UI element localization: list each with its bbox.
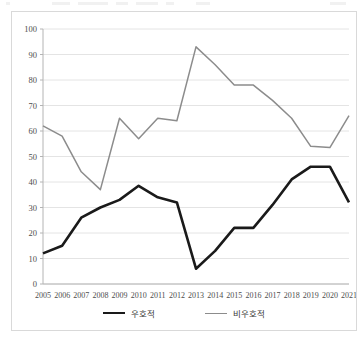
x-axis-tick-label: 2005 <box>35 291 51 300</box>
x-axis-tick-label: 2019 <box>303 291 319 300</box>
x-axis-tick-label: 2009 <box>112 291 128 300</box>
gridlines-group <box>43 29 349 284</box>
x-axis-tick-label: 2011 <box>150 291 166 300</box>
x-axis-tick-label: 2015 <box>226 291 242 300</box>
series-line-비우호적 <box>43 47 349 190</box>
x-axis-tick-labels: 2005200620072008200920102011201220132014… <box>35 291 356 300</box>
legend-line-swatch <box>205 313 227 314</box>
y-axis-tick-label: 70 <box>29 101 38 111</box>
x-axis-tick-label: 2013 <box>188 291 204 300</box>
y-axis-tick-labels: 0102030405060708090100 <box>24 24 37 289</box>
chart-legend: 우호적비우호적 <box>11 300 357 326</box>
y-axis-tick-label: 90 <box>29 50 38 60</box>
x-axis-tick-label: 2012 <box>169 291 185 300</box>
x-axis-tick-label: 2007 <box>73 291 89 300</box>
x-axis-tick-label: 2018 <box>284 291 300 300</box>
y-axis-tick-label: 10 <box>29 254 38 264</box>
y-axis-tick-label: 40 <box>29 177 38 187</box>
x-axis-tick-label: 2014 <box>207 291 223 300</box>
legend-label: 비우호적 <box>233 307 265 319</box>
legend-entry-0[interactable]: 우호적 <box>103 307 155 319</box>
x-axis-tick-label: 2016 <box>245 291 261 300</box>
chart-plot-frame: 0102030405060708090100 20052006200720082… <box>11 11 357 331</box>
x-axis-tick-label: 2010 <box>131 291 147 300</box>
y-axis-tick-label: 50 <box>29 152 38 162</box>
legend-entry-1[interactable]: 비우호적 <box>205 307 265 319</box>
y-axis-tick-label: 0 <box>33 279 37 289</box>
x-axis-tick-label: 2017 <box>265 291 281 300</box>
x-axis-tick-label: 2021 <box>341 291 356 300</box>
chart-svg: 0102030405060708090100 20052006200720082… <box>12 12 356 330</box>
line-chart-figure: 0102030405060708090100 20052006200720082… <box>0 0 364 341</box>
y-axis-tick-label: 20 <box>29 228 38 238</box>
x-axis-tick-label: 2008 <box>92 291 108 300</box>
legend-label: 우호적 <box>131 307 155 319</box>
y-axis-tick-label: 80 <box>29 75 38 85</box>
y-axis-tick-label: 100 <box>24 24 37 34</box>
legend-line-swatch <box>103 312 125 314</box>
x-axis-tick-label: 2006 <box>54 291 70 300</box>
chart-canvas: 0102030405060708090100 20052006200720082… <box>12 12 356 330</box>
y-axis-tick-label: 60 <box>29 126 38 136</box>
x-axis-tick-label: 2020 <box>322 291 338 300</box>
capture-artifact-strip <box>0 0 364 9</box>
y-axis-tick-label: 30 <box>29 203 38 213</box>
